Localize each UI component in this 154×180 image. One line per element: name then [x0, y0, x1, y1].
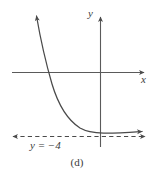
- graph-canvas: [0, 0, 154, 180]
- exponential-curve: [37, 16, 143, 133]
- figure-caption: (d): [0, 157, 154, 168]
- y-axis-label: y: [88, 8, 93, 19]
- x-axis-label: x: [141, 74, 146, 85]
- figure-container: y x y = −4 (d): [0, 0, 154, 180]
- asymptote-equation-label: y = −4: [30, 140, 61, 151]
